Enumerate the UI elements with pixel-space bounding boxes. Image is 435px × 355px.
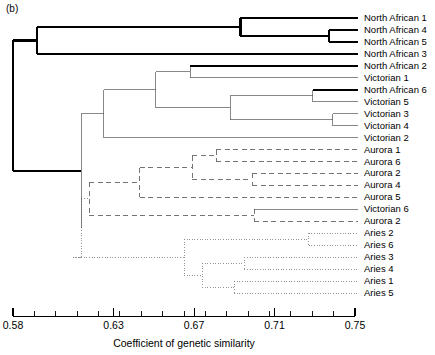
leaf-label: Victorian 6 [364,203,409,214]
leaf-label: Aurora 1 [364,144,400,155]
dendrogram-plot: North African 1North African 4North Afri… [0,0,435,355]
leaf-label: North African 6 [364,84,427,95]
leaf-label: North African 1 [364,12,427,23]
leaf-label: Victorian 3 [364,108,409,119]
x-axis-tick-label: 0.63 [103,319,124,331]
x-axis-title: Coefficient of genetic similarity [113,337,255,349]
leaf-label: Victorian 1 [364,72,409,83]
leaf-label: Aries 4 [364,263,394,274]
leaf-label: Victorian 2 [364,132,409,143]
leaf-label: Aries 2 [364,227,394,238]
leaf-label: Aries 6 [364,239,394,250]
dendrogram-figure: (b) North African 1North African 4North … [0,0,435,355]
leaf-label: Aries 5 [364,287,394,298]
leaf-label: Aurora 4 [364,179,400,190]
leaf-label: North African 4 [364,24,427,35]
leaf-label: Victorian 5 [364,96,409,107]
leaf-label: Aries 1 [364,275,394,286]
leaf-label: Aurora 6 [364,156,400,167]
leaf-label: Aries 3 [364,251,394,262]
x-axis-tick-label: 0.58 [3,319,24,331]
leaf-label: Aurora 2 [364,167,400,178]
leaf-label: Aurora 2 [364,215,400,226]
leaf-label: Victorian 4 [364,120,409,131]
x-axis-tick-label: 0.71 [264,319,285,331]
leaf-label: Aurora 5 [364,191,400,202]
leaf-label: North African 2 [364,60,427,71]
leaf-label: North African 5 [364,36,427,47]
leaf-label: North African 3 [364,48,427,59]
x-axis-tick-label: 0.67 [184,319,205,331]
x-axis-tick-label: 0.75 [345,319,366,331]
